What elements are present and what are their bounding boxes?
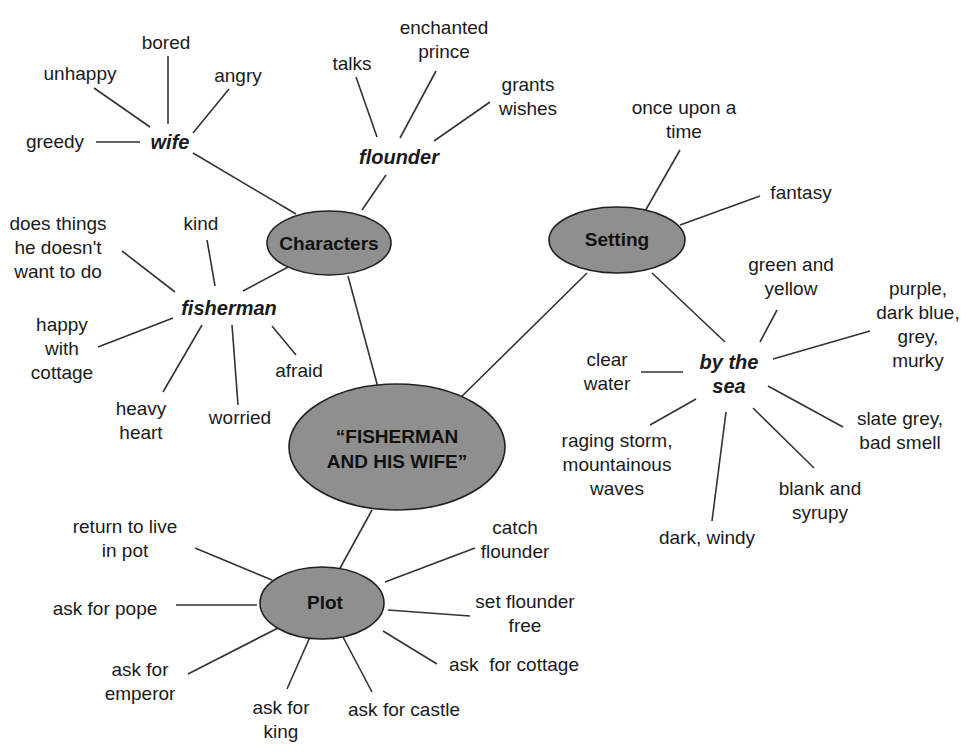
detail-bored: bored [142,31,191,55]
detail-green-and-yellow: green and yellow [748,253,834,301]
detail-raging-storm: raging storm, mountainous waves [562,429,673,501]
detail-unhappy: unhappy [44,62,117,86]
detail-fantasy: fantasy [770,181,831,205]
node-characters: Characters [279,232,378,256]
detail-blank-and-syrupy: blank and syrupy [779,477,861,525]
detail-heavy-heart: heavy heart [116,397,167,445]
detail-angry: angry [214,64,262,88]
detail-once-upon-a-time: once upon a time [632,96,737,144]
detail-ask-for-pope: ask for pope [53,597,158,621]
detail-catch-flounder: catch flounder [481,516,550,564]
detail-enchanted-prince: enchanted prince [400,16,489,64]
detail-happy-with-cottage: happy with cottage [31,313,93,385]
node-setting: Setting [585,228,649,252]
detail-greedy: greedy [26,130,84,154]
detail-kind: kind [184,212,219,236]
node-plot: Plot [307,591,343,615]
subtopic-wife: wife [151,130,190,154]
detail-afraid: afraid [275,359,323,383]
detail-dark-windy: dark, windy [659,526,755,550]
detail-ask-for-emperor: ask for emperor [105,658,176,706]
detail-grants-wishes: grants wishes [499,73,557,121]
detail-does-things: does things he doesn't want to do [9,212,106,284]
detail-talks: talks [332,52,371,76]
subtopic-fisherman: fisherman [181,296,277,320]
subtopic-by-the-sea: by the sea [700,350,759,398]
concept-map: “FISHERMAN AND HIS WIFE” Characters Sett… [0,0,975,752]
subtopic-flounder: flounder [359,145,439,169]
detail-worried: worried [209,406,271,430]
connector-lines [0,0,975,752]
detail-set-flounder-free: set flounder free [475,590,574,638]
detail-return-to-live-in-pot: return to live in pot [73,515,178,563]
detail-ask-for-king: ask for king [252,696,309,744]
detail-clear-water: clear water [584,348,630,396]
detail-ask-for-castle: ask for castle [348,698,460,722]
detail-ask-for-cottage: ask for cottage [449,653,579,677]
detail-slate-grey: slate grey, bad smell [857,407,943,455]
detail-purple-dark-blue: purple, dark blue, grey, murky [876,277,959,373]
central-topic: “FISHERMAN AND HIS WIFE” [327,424,467,474]
